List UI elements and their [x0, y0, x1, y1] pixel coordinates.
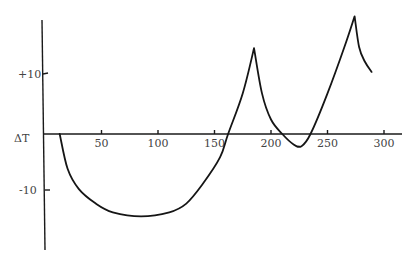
x-tick-label-50: 50	[95, 137, 109, 150]
y-tick-plus10	[43, 73, 48, 74]
y-tick-label-minus10: -10	[19, 184, 37, 197]
x-tick-label-100: 100	[148, 137, 169, 150]
x-tick-label-200: 200	[261, 137, 282, 150]
y-axis	[42, 20, 45, 250]
x-tick-label-150: 150	[204, 137, 225, 150]
delta-t-chart: +10 -10 ΔT 50100150200250300	[0, 0, 418, 264]
y-tick-label-plus10: +10	[18, 68, 41, 81]
x-ticks: 50100150200250300	[95, 130, 395, 150]
delta-t-curve	[60, 16, 372, 216]
y-axis-label: ΔT	[14, 132, 30, 145]
x-tick-label-250: 250	[317, 137, 338, 150]
x-tick-label-300: 300	[374, 137, 395, 150]
